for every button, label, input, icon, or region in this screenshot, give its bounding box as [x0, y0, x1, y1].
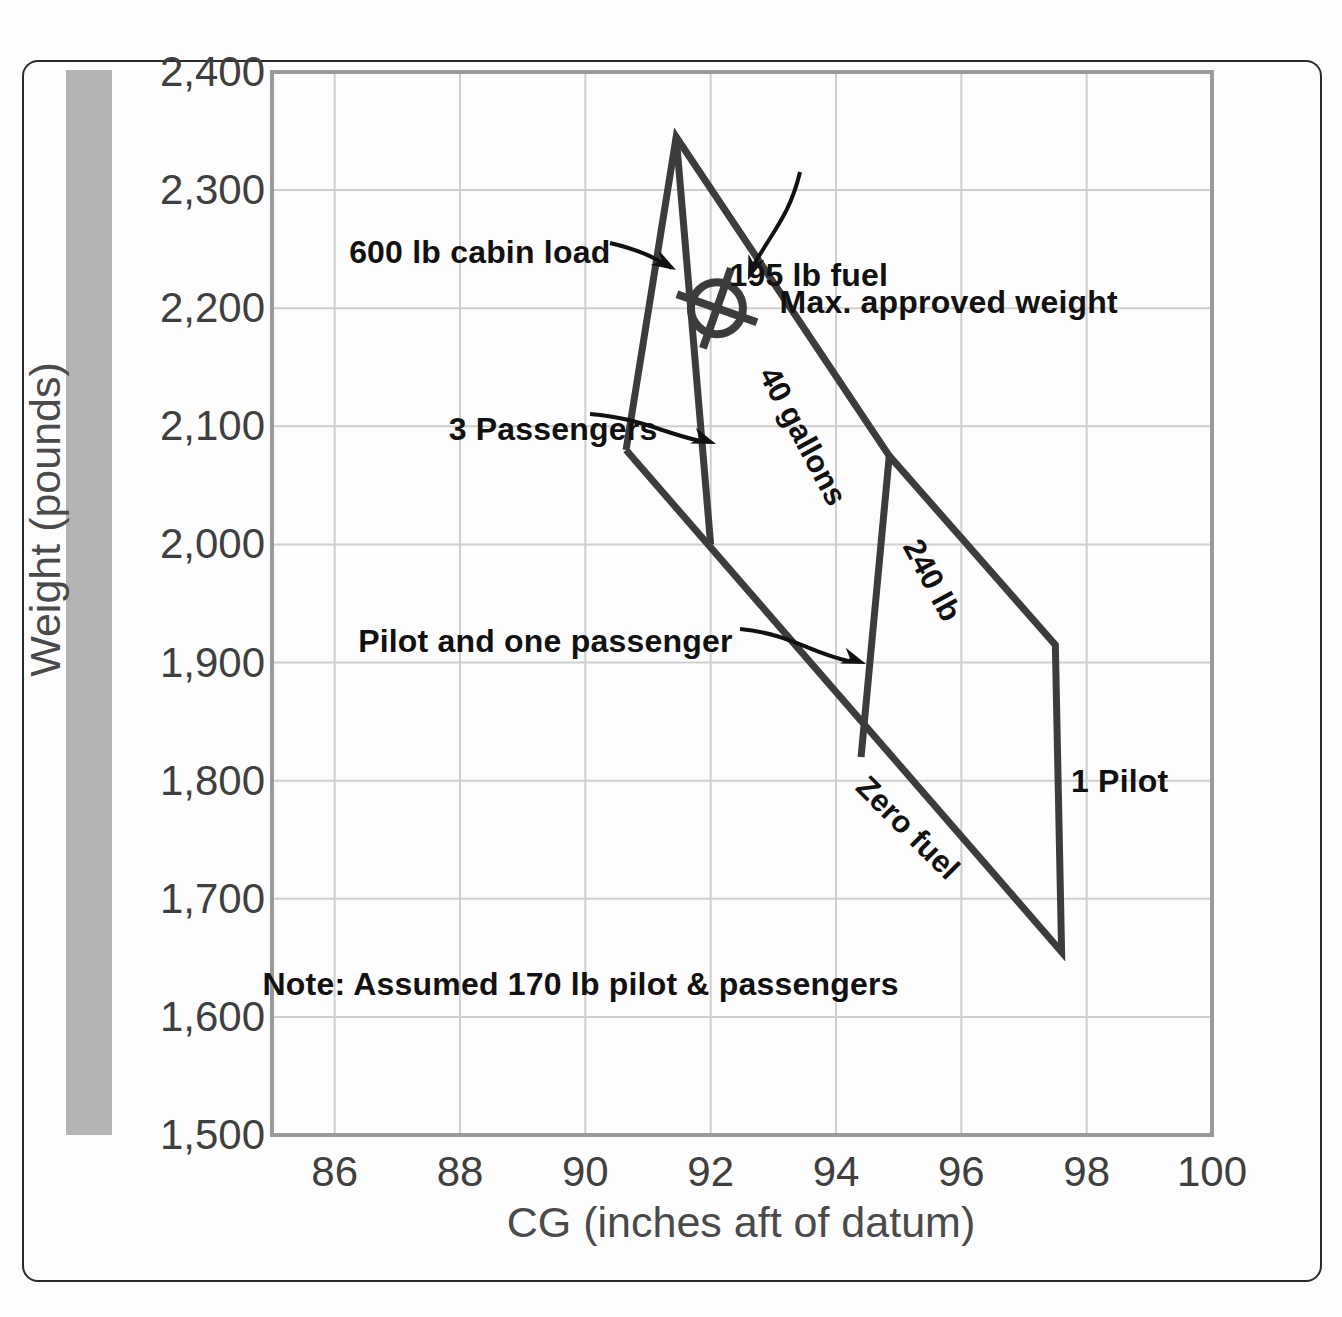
x-tick-98: 98: [1027, 1148, 1147, 1196]
x-tick-86: 86: [275, 1148, 395, 1196]
x-tick-88: 88: [400, 1148, 520, 1196]
x-tick-92: 92: [651, 1148, 771, 1196]
annotation-3-passengers: 3 Passengers: [449, 410, 658, 447]
annotation-1-pilot: 1 Pilot: [1071, 762, 1168, 799]
annotation-note: Note: Assumed 170 lb pilot & passengers: [263, 965, 899, 1002]
x-tick-94: 94: [776, 1148, 896, 1196]
annotation-pilot-and-one-passenger: Pilot and one passenger: [358, 623, 732, 660]
annotation-max-approved-weight: Max. approved weight: [780, 284, 1118, 321]
x-tick-100: 100: [1152, 1148, 1272, 1196]
chart-page: Weight (pounds) CG (inches aft of datum)…: [0, 0, 1342, 1317]
x-tick-96: 96: [901, 1148, 1021, 1196]
x-tick-90: 90: [525, 1148, 645, 1196]
annotation-600-lb-cabin-load: 600 lb cabin load: [349, 233, 610, 270]
